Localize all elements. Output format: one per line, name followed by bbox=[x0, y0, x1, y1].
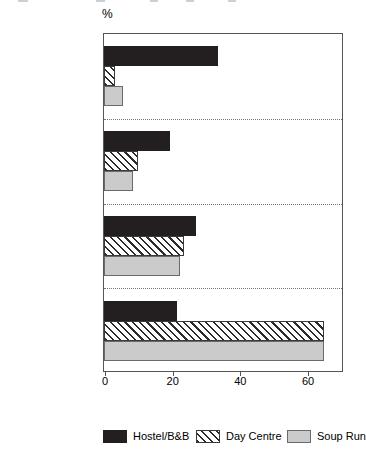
legend-swatch-icon bbox=[287, 430, 311, 443]
category-group bbox=[104, 34, 342, 119]
legend-item: Day Centre bbox=[196, 428, 282, 444]
bar-3-1 bbox=[104, 321, 324, 341]
x-tick-label: 40 bbox=[220, 375, 260, 388]
category-group bbox=[104, 119, 342, 204]
bar-1-1 bbox=[104, 151, 138, 171]
legend-swatch-icon bbox=[196, 430, 220, 443]
bar-3-2 bbox=[104, 341, 324, 361]
plot-inner bbox=[104, 34, 342, 371]
bar-2-2 bbox=[104, 256, 180, 276]
bar-3-0 bbox=[104, 301, 177, 321]
bar-0-2 bbox=[104, 86, 123, 106]
top-crop-artifact bbox=[0, 0, 350, 3]
x-tick-label: 0 bbox=[85, 375, 125, 388]
bar-0-1 bbox=[104, 66, 115, 86]
x-tick-label: 60 bbox=[288, 375, 328, 388]
category-group bbox=[104, 288, 342, 373]
legend-label: Soup Run bbox=[317, 430, 366, 443]
bar-1-0 bbox=[104, 131, 170, 151]
bar-2-0 bbox=[104, 216, 196, 236]
legend-label: Day Centre bbox=[226, 430, 282, 443]
chart-legend: Hostel/B&BDay CentreSoup Run bbox=[103, 428, 350, 444]
x-tick-label: 20 bbox=[153, 375, 193, 388]
legend-swatch-icon bbox=[103, 430, 127, 443]
axis-unit-label: % bbox=[102, 7, 113, 21]
legend-item: Hostel/B&B bbox=[103, 428, 189, 444]
plot-area bbox=[103, 33, 343, 372]
bar-1-2 bbox=[104, 171, 133, 191]
bar-2-1 bbox=[104, 236, 184, 256]
legend-item: Soup Run bbox=[287, 428, 366, 444]
bar-0-0 bbox=[104, 46, 218, 66]
legend-label: Hostel/B&B bbox=[133, 430, 189, 443]
category-group bbox=[104, 204, 342, 289]
